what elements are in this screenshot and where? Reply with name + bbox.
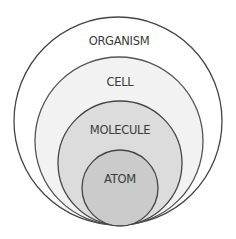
cell-label: CELL: [107, 75, 135, 89]
level-atom: [82, 150, 158, 226]
organism-label: ORGANISM: [89, 34, 150, 48]
atom-circle: [82, 150, 158, 226]
molecule-label: MOLECULE: [90, 123, 150, 137]
nested-circles-diagram: ORGANISM CELL MOLECULE ATOM: [0, 0, 236, 239]
atom-label: ATOM: [104, 172, 136, 186]
